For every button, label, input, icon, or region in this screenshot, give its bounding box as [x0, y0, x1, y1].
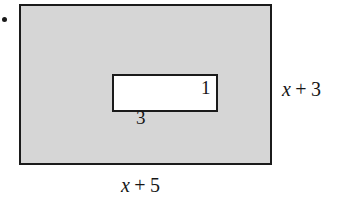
outer-width-constant: 5	[150, 174, 160, 196]
outer-width-variable: x	[121, 174, 130, 196]
inner-rectangle-width-label: 3	[136, 108, 146, 127]
outer-height-operator: +	[291, 78, 311, 100]
figure-canvas: 1 3 x + 3 x + 5	[0, 0, 340, 201]
outer-height-variable: x	[282, 78, 291, 100]
inner-rectangle-height-label: 1	[201, 78, 211, 97]
outer-height-constant: 3	[311, 78, 321, 100]
outer-rectangle-height-label: x + 3	[282, 79, 321, 99]
outer-rectangle-width-label: x + 5	[121, 175, 160, 195]
bullet-marker-icon	[2, 17, 7, 22]
outer-width-operator: +	[130, 174, 150, 196]
outer-shaded-rectangle	[19, 4, 272, 165]
